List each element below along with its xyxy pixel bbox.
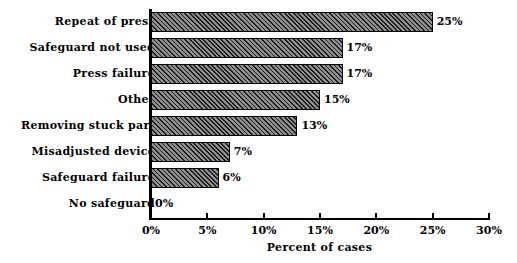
- x-tick-mark-2: [263, 213, 265, 219]
- x-tick-label-6: 30%: [467, 224, 511, 237]
- plot-area: Repeat of press 25% Safeguard not used 1…: [0, 0, 517, 263]
- bar-chart: Repeat of press 25% Safeguard not used 1…: [0, 0, 517, 263]
- x-tick-label-0: 0%: [129, 224, 173, 237]
- x-axis-title: Percent of cases: [149, 241, 490, 254]
- x-tick-mark-0: [150, 213, 152, 219]
- x-tick-label-2: 10%: [242, 224, 286, 237]
- x-tick-mark-6: [488, 213, 490, 219]
- x-axis-ticks: 0%5%10%15%20%25%30%: [0, 0, 517, 263]
- x-tick-mark-5: [432, 213, 434, 219]
- x-tick-label-3: 15%: [298, 224, 342, 237]
- x-tick-label-1: 5%: [185, 224, 229, 237]
- x-tick-label-4: 20%: [354, 224, 398, 237]
- x-tick-mark-3: [319, 213, 321, 219]
- x-tick-label-5: 25%: [411, 224, 455, 237]
- x-tick-mark-1: [206, 213, 208, 219]
- x-tick-mark-4: [375, 213, 377, 219]
